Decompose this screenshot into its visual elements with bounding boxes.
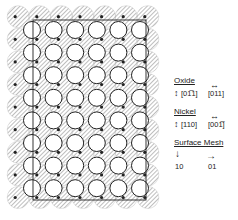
oxide-dir2: [011] — [208, 89, 224, 98]
legend: Oxide ↕ [01̅1] ↔ [011] Nickel ↕ [110] ↔ … — [172, 0, 238, 220]
nickel-dir1: [110] — [181, 120, 197, 129]
oxide-dir1: [01̅1] — [181, 89, 198, 98]
mesh-right-arrow-icon: → — [206, 150, 216, 161]
nickel-heading: Nickel — [174, 107, 196, 116]
nickel-vertical-arrow-icon: ↕ — [174, 119, 179, 129]
nickel-dir2: [001̅] — [208, 120, 225, 129]
mesh-dir2: 01 — [208, 162, 216, 171]
mesh-dir1: 10 — [175, 162, 183, 171]
lattice-diagram — [0, 0, 172, 220]
oxide-vertical-arrow-icon: ↕ — [174, 88, 179, 98]
mesh-down-arrow-icon: ↓ — [175, 148, 180, 159]
mesh-heading: Surface Mesh — [174, 138, 223, 147]
oxide-heading: Oxide — [174, 76, 195, 85]
